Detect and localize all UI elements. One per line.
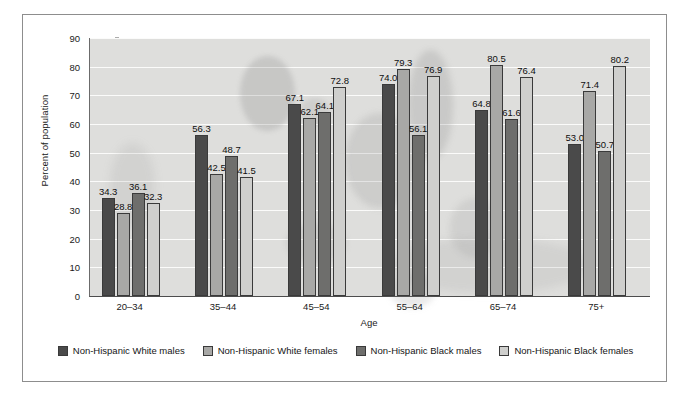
bar[interactable] <box>490 65 503 296</box>
y-axis-tick-30: 30 <box>53 205 80 216</box>
bar-wrap: 71.4 <box>583 38 596 296</box>
bar-wrap: 67.1 <box>288 38 301 296</box>
legend-label: Non-Hispanic White males <box>73 345 185 356</box>
bar-group-55-64: 74.079.356.176.9 <box>370 38 463 296</box>
bar-wrap: 36.1 <box>132 38 145 296</box>
bar[interactable] <box>397 69 410 296</box>
y-axis-tick-40: 40 <box>53 176 80 187</box>
bar-value-label: 76.4 <box>503 65 549 76</box>
bar-wrap: 50.7 <box>598 38 611 296</box>
bar-wrap: 80.5 <box>490 38 503 296</box>
bar-value-label: 72.8 <box>317 75 363 86</box>
x-axis-tick-35-44: 35–44 <box>210 301 236 312</box>
bar[interactable] <box>288 104 301 296</box>
bar[interactable] <box>568 144 581 296</box>
bar-value-label: 41.5 <box>223 165 269 176</box>
bar-wrap: 76.9 <box>427 38 440 296</box>
bar[interactable] <box>117 213 130 296</box>
bar-wrap: 79.3 <box>397 38 410 296</box>
bar-wrap: 76.4 <box>520 38 533 296</box>
y-axis-tick-labels: 0102030405060708090 <box>53 38 80 296</box>
x-axis-tick-45-54: 45–54 <box>303 301 329 312</box>
y-axis-title: Percent of population <box>39 61 50 221</box>
bar[interactable] <box>505 119 518 296</box>
legend-label: Non-Hispanic Black males <box>371 345 482 356</box>
legend-item-non-hispanic-white-males[interactable]: Non-Hispanic White males <box>58 345 185 356</box>
bar[interactable] <box>240 177 253 296</box>
bar-wrap: 74.0 <box>382 38 395 296</box>
plot-area: 34.328.836.132.356.342.548.741.567.162.1… <box>89 38 650 297</box>
chart-region: Percent of population 010203040506070809… <box>23 15 668 325</box>
x-axis-tick-55-64: 55–64 <box>396 301 422 312</box>
bar-wrap: 56.1 <box>412 38 425 296</box>
y-axis-tick-80: 80 <box>53 61 80 72</box>
bar[interactable] <box>318 112 331 296</box>
bar-wrap: 61.6 <box>505 38 518 296</box>
x-axis-tick-20-34: 20–34 <box>116 301 142 312</box>
y-axis-tick-20: 20 <box>53 233 80 244</box>
y-axis-tick-10: 10 <box>53 262 80 273</box>
legend-item-non-hispanic-black-females[interactable]: Non-Hispanic Black females <box>499 345 633 356</box>
figure-frame: Percent of population 010203040506070809… <box>22 14 667 382</box>
bar-wrap: 80.2 <box>613 38 626 296</box>
y-axis-tick-60: 60 <box>53 119 80 130</box>
bar-wrap: 62.1 <box>303 38 316 296</box>
legend-swatch-icon <box>203 346 213 356</box>
bar-group-75-: 53.071.450.780.2 <box>557 38 650 296</box>
bar-value-label: 32.3 <box>130 191 176 202</box>
bar[interactable] <box>225 156 238 296</box>
bar-value-label: 76.9 <box>410 64 456 75</box>
bar[interactable] <box>583 91 596 296</box>
legend-item-non-hispanic-white-females[interactable]: Non-Hispanic White females <box>203 345 338 356</box>
legend-label: Non-Hispanic White females <box>218 345 338 356</box>
legend: Non-Hispanic White malesNon-Hispanic Whi… <box>23 345 668 356</box>
bar[interactable] <box>412 135 425 296</box>
y-axis-tick-0: 0 <box>53 291 80 302</box>
bar-value-label: 80.2 <box>597 54 643 65</box>
bar[interactable] <box>598 151 611 296</box>
bar[interactable] <box>303 118 316 296</box>
bar[interactable] <box>520 77 533 296</box>
bars-layer: 34.328.836.132.356.342.548.741.567.162.1… <box>90 38 650 296</box>
bar-wrap: 32.3 <box>147 38 160 296</box>
bar[interactable] <box>475 110 488 296</box>
x-axis-tick-labels: 20–3435–4445–5455–6465–7475+ <box>89 301 649 317</box>
bar[interactable] <box>132 193 145 296</box>
bar-group-45-54: 67.162.164.172.8 <box>277 38 370 296</box>
bar-wrap: 64.8 <box>475 38 488 296</box>
bar-group-35-44: 56.342.548.741.5 <box>183 38 276 296</box>
x-axis-tick-75-: 75+ <box>588 301 604 312</box>
bar-wrap: 34.3 <box>102 38 115 296</box>
x-axis-tick-65-74: 65–74 <box>490 301 516 312</box>
legend-label: Non-Hispanic Black females <box>514 345 633 356</box>
bar-wrap: 28.8 <box>117 38 130 296</box>
y-axis-tick-50: 50 <box>53 147 80 158</box>
legend-item-non-hispanic-black-males[interactable]: Non-Hispanic Black males <box>356 345 482 356</box>
x-axis-title: Age <box>89 317 649 328</box>
bar-wrap: 42.5 <box>210 38 223 296</box>
bar[interactable] <box>333 87 346 296</box>
legend-swatch-icon <box>499 346 509 356</box>
legend-swatch-icon <box>356 346 366 356</box>
legend-swatch-icon <box>58 346 68 356</box>
bar[interactable] <box>195 135 208 296</box>
bar-wrap: 53.0 <box>568 38 581 296</box>
bar[interactable] <box>613 66 626 296</box>
y-axis-tick-90: 90 <box>53 33 80 44</box>
bar-wrap: 72.8 <box>333 38 346 296</box>
bar-wrap: 41.5 <box>240 38 253 296</box>
bar[interactable] <box>427 76 440 296</box>
bar[interactable] <box>147 203 160 296</box>
bar[interactable] <box>382 84 395 296</box>
y-axis-tick-70: 70 <box>53 90 80 101</box>
bar[interactable] <box>210 174 223 296</box>
bar-group-65-74: 64.880.561.676.4 <box>463 38 556 296</box>
bar-group-20-34: 34.328.836.132.3 <box>90 38 183 296</box>
